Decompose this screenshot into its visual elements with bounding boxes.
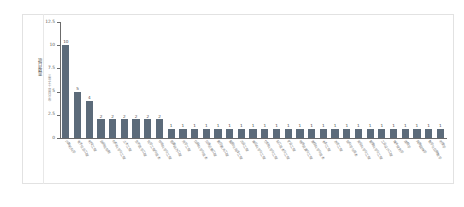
x-label-slot: 纺织科学与工程 (259, 140, 271, 202)
bar[interactable] (261, 129, 268, 138)
bar-slot[interactable]: 1 (282, 22, 294, 138)
bar-slot[interactable]: 1 (212, 22, 224, 138)
x-label-slot: 航空航天工程 (212, 140, 224, 202)
bar-slot[interactable]: 1 (165, 22, 177, 138)
x-label-slot: 冶金工程 (329, 140, 341, 202)
bar-value-label: 1 (205, 124, 208, 128)
bar-slot[interactable]: 2 (95, 22, 107, 138)
bar-value-label: 1 (287, 124, 290, 128)
bar[interactable] (249, 129, 256, 138)
bar[interactable] (238, 129, 245, 138)
bar-value-label: 1 (240, 124, 243, 128)
bar-slot[interactable]: 1 (411, 22, 423, 138)
bar-slot[interactable]: 2 (142, 22, 154, 138)
bar-slot[interactable]: 1 (376, 22, 388, 138)
bar[interactable] (308, 129, 315, 138)
bar[interactable] (425, 129, 432, 138)
bar-slot[interactable]: 1 (353, 22, 365, 138)
x-label-slot: 管理科学与工程 (364, 140, 376, 202)
x-label-slot: 数学与应用数学 (423, 140, 435, 202)
bar-value-label: 1 (416, 124, 419, 128)
chart-screenshot: 三等奖十项目分布 项目数量 02.557.51012.5 10542222221… (0, 0, 464, 207)
bar-value-label: 5 (76, 87, 79, 91)
bar-slot[interactable]: 10 (60, 22, 72, 138)
bar[interactable] (191, 129, 198, 138)
bar-value-label: 2 (158, 115, 161, 119)
bar[interactable] (74, 92, 81, 138)
bar[interactable] (121, 119, 128, 138)
bar-slot[interactable]: 1 (317, 22, 329, 138)
bar[interactable] (390, 129, 397, 138)
bar[interactable] (156, 119, 163, 138)
bar-slot[interactable]: 1 (271, 22, 283, 138)
x-label-slot: 工业设计工程 (376, 140, 388, 202)
bar[interactable] (378, 129, 385, 138)
bar[interactable] (168, 129, 175, 138)
bar-slot[interactable]: 1 (224, 22, 236, 138)
bar-slot[interactable]: 1 (177, 22, 189, 138)
bar-slot[interactable]: 1 (306, 22, 318, 138)
bar-slot[interactable]: 1 (341, 22, 353, 138)
bar-slot[interactable]: 1 (423, 22, 435, 138)
bar-slot[interactable]: 1 (388, 22, 400, 138)
bar-value-label: 1 (439, 124, 442, 128)
y-axis-tick-label: 7.5 (48, 65, 55, 70)
bar-value-label: 4 (88, 96, 91, 100)
y-axis-tick: 5 (0, 92, 60, 93)
bar[interactable] (296, 129, 303, 138)
bar[interactable] (214, 129, 221, 138)
bar-slot[interactable]: 1 (200, 22, 212, 138)
x-label-slot: 光学工程 (177, 140, 189, 202)
bar[interactable] (62, 45, 69, 138)
bar-value-label: 1 (252, 124, 255, 128)
bar[interactable] (109, 119, 116, 138)
y-axis-tick: 0 (0, 138, 60, 139)
bar-value-label: 1 (193, 124, 196, 128)
bar[interactable] (437, 129, 444, 138)
bar-slot[interactable]: 1 (294, 22, 306, 138)
bar[interactable] (343, 129, 350, 138)
bar[interactable] (86, 101, 93, 138)
bar-slot[interactable]: 4 (83, 22, 95, 138)
x-label-slot: 仪器科学与技术 (189, 140, 201, 202)
bar-slot[interactable]: 1 (236, 22, 248, 138)
bar-slot[interactable]: 1 (329, 22, 341, 138)
bar[interactable] (402, 129, 409, 138)
bar[interactable] (132, 119, 139, 138)
bar[interactable] (413, 129, 420, 138)
bar-slot[interactable]: 2 (154, 22, 166, 138)
bar[interactable] (320, 129, 327, 138)
bar[interactable] (144, 119, 151, 138)
x-label-slot: 土木工程 (119, 140, 131, 202)
bar[interactable] (97, 119, 104, 138)
bar-slot[interactable]: 1 (259, 22, 271, 138)
y-axis-tick-label: 10 (49, 42, 55, 47)
bar[interactable] (226, 129, 233, 138)
bar-slot[interactable]: 1 (435, 22, 447, 138)
bar-value-label: 2 (123, 115, 126, 119)
bar-slot[interactable]: 2 (130, 22, 142, 138)
bar[interactable] (355, 129, 362, 138)
x-label-slot: 地质资源与工程 (294, 140, 306, 202)
bar[interactable] (367, 129, 374, 138)
bar[interactable] (203, 129, 210, 138)
bar-slot[interactable]: 1 (399, 22, 411, 138)
x-label-slot: 计算机科学 (60, 140, 72, 202)
bar-slot[interactable]: 1 (247, 22, 259, 138)
bar[interactable] (179, 129, 186, 138)
bar-slot[interactable]: 2 (119, 22, 131, 138)
y-axis-tick: 10 (0, 45, 60, 46)
y-axis-tick-label: 12.5 (45, 19, 55, 24)
bar-slot[interactable]: 5 (72, 22, 84, 138)
bar[interactable] (285, 129, 292, 138)
x-label-slot: 建筑学 (399, 140, 411, 202)
bar-slot[interactable]: 1 (189, 22, 201, 138)
bar[interactable] (331, 129, 338, 138)
bar-slot[interactable]: 2 (107, 22, 119, 138)
bar-series: 1054222222111111111111111111111111 (60, 22, 446, 138)
x-label-slot: 农业工程 (236, 140, 248, 202)
bar-slot[interactable]: 1 (364, 22, 376, 138)
bar-value-label: 1 (275, 124, 278, 128)
bar[interactable] (273, 129, 280, 138)
bar-value-label: 10 (63, 40, 68, 44)
